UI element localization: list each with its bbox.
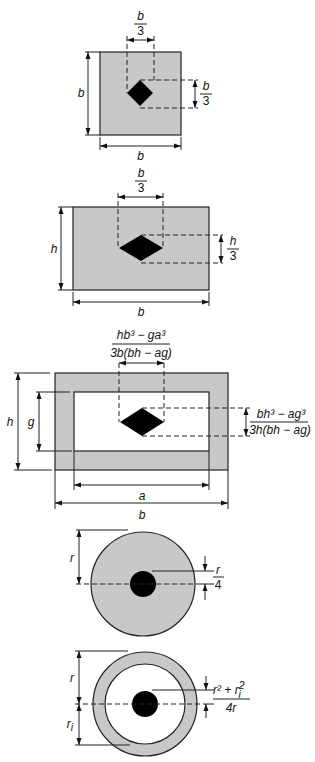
kern-height-den: 3 <box>203 94 210 108</box>
outer-width-label: b <box>139 508 146 522</box>
kern-radius-den: 4r <box>226 701 238 715</box>
side-bottom-label: b <box>137 149 144 163</box>
kern-height-num: bh³ − ag³ <box>257 407 306 421</box>
width-label: b <box>138 305 145 319</box>
inner-height-label: g <box>28 415 35 429</box>
figure-solid-circle: r r 4 <box>70 530 224 636</box>
kern-height-num: b <box>203 79 210 93</box>
kern-diagram: b 3 b 3 b b b 3 h 3 <box>0 0 315 762</box>
kern-width-num: hb³ − ga³ <box>117 328 166 342</box>
kern-height-den: 3h(bh − ag) <box>249 423 311 437</box>
figure-hollow-rectangle: hb³ − ga³ 3b(bh − ag) bh³ − ag³ 3h(bh − … <box>7 328 311 522</box>
outer-radius-label: r <box>70 671 75 685</box>
height-label: h <box>51 242 58 256</box>
kern-radius-num: r <box>216 563 221 577</box>
outer-height-label: h <box>7 415 14 429</box>
kern-height-den: 3 <box>230 249 237 263</box>
radius-label: r <box>70 551 75 565</box>
figure-rectangle: b 3 h 3 h b <box>51 166 239 319</box>
kern-width-den: 3b(bh − ag) <box>110 346 172 360</box>
figure-hollow-circle: r ri r² + r2i 4r <box>67 651 250 756</box>
kern-radius-den: 4 <box>215 578 222 592</box>
side-left-label: b <box>78 86 85 100</box>
kern-width-den: 3 <box>137 24 144 38</box>
kern-width-num: b <box>138 166 145 180</box>
inner-width-label: a <box>139 489 146 503</box>
kern-width-den: 3 <box>138 181 145 195</box>
kern-width-num: b <box>137 9 144 23</box>
inner-radius-label: ri <box>67 717 74 733</box>
kern-height-num: h <box>230 234 237 248</box>
figure-square: b 3 b 3 b b <box>78 9 212 163</box>
kern-radius-num: r² + r2i <box>213 679 245 700</box>
